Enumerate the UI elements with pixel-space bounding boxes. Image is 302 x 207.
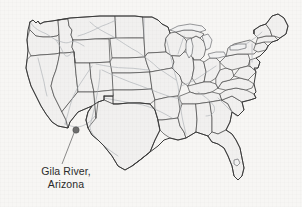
state-north-dakota: [115, 16, 144, 38]
callout-label-line-1: Gila River,: [14, 165, 118, 178]
state-florida: [208, 130, 244, 180]
locator-map-figure: Gila River, Arizona: [0, 0, 302, 207]
state-alabama: [196, 102, 212, 136]
state-arkansas: [155, 96, 180, 120]
gila-river-marker-dot: [73, 127, 79, 133]
state-nebraska: [110, 57, 150, 73]
state-kansas: [112, 72, 152, 90]
state-south-dakota: [110, 38, 145, 58]
gila-river-callout-label: Gila River, Arizona: [14, 165, 118, 191]
lake-erie: [208, 52, 226, 58]
callout-label-line-2: Arizona: [14, 178, 118, 191]
callout-group: [62, 127, 79, 164]
callout-leader-line: [62, 133, 74, 164]
